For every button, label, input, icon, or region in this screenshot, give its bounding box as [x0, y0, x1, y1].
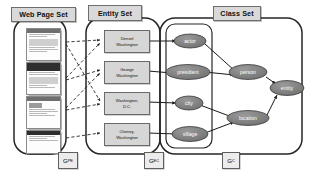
edges-page-to-entity: [66, 40, 100, 138]
thumbnail-line: [29, 87, 55, 88]
graph-label-g-ec: GEC: [144, 152, 164, 169]
graph-label-sub: C: [232, 158, 235, 163]
thumbnail-titlebar: [27, 131, 60, 135]
thumbnail-line: [29, 115, 55, 116]
thumbnail-line: [29, 111, 58, 112]
entity-label-line2: Washington: [116, 73, 137, 78]
thumbnail-image: [29, 103, 42, 108]
class-nodes: actor president city village person loca…: [166, 34, 304, 142]
graph-label-g-c: GC: [222, 152, 240, 169]
thumbnail-line: [29, 136, 55, 137]
cls-location-label: location: [239, 115, 257, 121]
cls-president-node[interactable]: president: [166, 65, 210, 80]
edge-page3-george: [66, 73, 100, 108]
edge-city-location: [200, 105, 232, 117]
thumbnail-titlebar: [27, 97, 60, 101]
edge-location-entity: [266, 95, 277, 117]
thumbnail-line: [29, 49, 58, 50]
entity-box-george-washington[interactable]: George Washington: [104, 61, 150, 84]
cls-village-node[interactable]: village: [172, 127, 208, 142]
web-page-thumbnail-3[interactable]: [26, 96, 61, 129]
entity-label-line2: D.C.: [123, 104, 131, 109]
panel-header-class: Class Set: [213, 6, 261, 21]
cls-actor-label: actor: [184, 38, 196, 44]
graph-label-sub: PE: [68, 158, 73, 163]
panel-header-webpage: Web Page Set: [11, 7, 76, 22]
thumbnail-line: [29, 34, 55, 35]
cls-location-node[interactable]: location: [227, 111, 269, 126]
web-page-thumbnail-4[interactable]: [26, 130, 61, 154]
cls-entity-node[interactable]: entity: [270, 81, 304, 96]
web-page-thumbnail-1[interactable]: [26, 28, 61, 61]
cls-city-label: city: [185, 100, 193, 106]
graph-label-sub: EC: [154, 158, 160, 163]
edges-entity-to-class: [148, 41, 176, 134]
web-page-thumbnail-2[interactable]: [26, 62, 61, 95]
cls-city-node[interactable]: city: [175, 96, 203, 110]
entity-label-line2: Washington: [116, 42, 137, 47]
thumbnail-line: [29, 138, 47, 139]
edge-village-location: [205, 122, 234, 133]
edge-page2-george: [66, 70, 100, 80]
edge-page4-cheney: [66, 133, 100, 138]
thumbnail-titlebar: [27, 63, 60, 71]
edge-page3-dc: [66, 104, 100, 110]
thumbnail-line: [29, 113, 47, 114]
thumbnail-line: [29, 36, 47, 37]
entity-box-washington-dc[interactable]: Washington, D.C.: [104, 92, 150, 115]
cls-person-label: person: [240, 69, 256, 75]
thumbnail-block: [29, 77, 58, 84]
diagram-canvas: actor president city village person loca…: [0, 0, 319, 178]
thumbnail-line: [29, 109, 55, 110]
thumbnail-line: [29, 140, 58, 141]
cls-entity-label: entity: [281, 85, 294, 91]
edge-actor-person: [205, 44, 235, 71]
thumbnail-line: [29, 74, 58, 75]
entity-label-line2: Washington: [116, 135, 137, 140]
panel-header-entity: Entity Set: [88, 5, 142, 21]
entity-box-denzel-washington[interactable]: Denzel Washington: [104, 30, 150, 53]
edge-page1-denzel: [66, 40, 100, 42]
thumbnail-block: [29, 39, 58, 46]
thumbnail-line: [29, 51, 47, 52]
cls-person-node[interactable]: person: [229, 65, 267, 80]
edge-dc-city: [148, 102, 176, 103]
thumbnail-line: [29, 47, 55, 48]
thumbnail-line: [29, 72, 55, 73]
cls-actor-node[interactable]: actor: [174, 34, 206, 48]
cls-president-label: president: [177, 69, 199, 75]
graph-label-g-pe: GPE: [58, 152, 78, 169]
cls-village-label: village: [183, 131, 198, 137]
thumbnail-titlebar: [27, 29, 60, 33]
entity-box-cheney-washington[interactable]: Cheney, Washington: [104, 123, 150, 146]
thumbnail-line: [29, 85, 47, 86]
